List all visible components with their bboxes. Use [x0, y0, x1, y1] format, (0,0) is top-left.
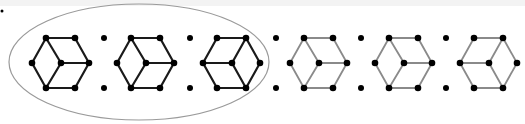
cube-1-edge — [46, 38, 61, 63]
cube-1-vertex-C — [58, 60, 65, 67]
cube-6-edge — [489, 38, 503, 63]
cube-3-edge — [232, 63, 246, 88]
separator-dot-bottom — [358, 85, 364, 91]
cube-2-edge — [131, 38, 146, 63]
cube-4-vertex-BR — [330, 85, 337, 92]
cube-2-edge — [117, 38, 131, 63]
cube-2-vertex-C — [143, 60, 150, 67]
separator-dot-bottom — [443, 85, 449, 91]
cube-5-vertex-L — [372, 60, 379, 67]
cube-4-edge — [304, 63, 319, 88]
cube-4-vertex-TL — [301, 35, 308, 42]
cube-5-vertex-C — [401, 60, 408, 67]
cube-graph-diagram — [0, 0, 525, 124]
cube-5-edge — [375, 38, 389, 63]
cube-3-edge — [246, 63, 260, 88]
cube-3-vertex-C — [229, 60, 236, 67]
cube-2-vertex-TR — [157, 35, 164, 42]
cube-4-edge — [333, 63, 347, 88]
cube-2-vertex-BL — [128, 85, 135, 92]
cube-2-edge — [131, 63, 146, 88]
cube-5-edge — [389, 63, 404, 88]
separator-dot-top — [101, 35, 107, 41]
corner-dot — [1, 10, 4, 13]
cube-5-edge — [418, 38, 432, 63]
cube-1-vertex-TL — [43, 35, 50, 42]
cube-2-vertex-R — [171, 60, 178, 67]
cube-5-vertex-TR — [415, 35, 422, 42]
cube-3-edge — [203, 63, 217, 88]
cube-1-vertex-TR — [72, 35, 79, 42]
cube-4-edge — [290, 38, 304, 63]
separator-dot-bottom — [101, 85, 107, 91]
cube-1-vertex-R — [86, 60, 93, 67]
cube-1-vertex-BL — [43, 85, 50, 92]
cube-3-vertex-R — [257, 60, 264, 67]
cube-3-vertex-BL — [214, 85, 221, 92]
cube-6-vertex-BL — [471, 85, 478, 92]
separator-dot-bottom — [273, 85, 279, 91]
cube-3-vertex-TR — [243, 35, 250, 42]
cube-5-edge — [418, 63, 432, 88]
cube-1-edge — [75, 63, 89, 88]
cube-6-vertex-L — [457, 60, 464, 67]
cube-3-edge — [232, 38, 246, 63]
cube-4-edge — [333, 38, 347, 63]
cube-4-vertex-TR — [330, 35, 337, 42]
cube-4-vertex-R — [344, 60, 351, 67]
cube-5-vertex-R — [429, 60, 436, 67]
cube-4-vertex-C — [316, 60, 323, 67]
cube-5-edge — [389, 38, 404, 63]
separator-dot-top — [443, 35, 449, 41]
cube-5-vertex-TL — [386, 35, 393, 42]
cube-2-vertex-L — [114, 60, 121, 67]
cube-6-vertex-C — [486, 60, 493, 67]
cube-4-edge — [304, 38, 319, 63]
cube-1-edge — [32, 63, 46, 88]
cube-5-vertex-BR — [415, 85, 422, 92]
cube-6-vertex-BR — [500, 85, 507, 92]
cube-1-edge — [75, 38, 89, 63]
cube-6-vertex-TL — [471, 35, 478, 42]
separator-dot-top — [273, 35, 279, 41]
cube-6-edge — [460, 38, 474, 63]
separator-dot-bottom — [187, 85, 193, 91]
cube-5-vertex-BL — [386, 85, 393, 92]
cube-2-vertex-BR — [157, 85, 164, 92]
cube-1-vertex-L — [29, 60, 36, 67]
cube-6-vertex-R — [514, 60, 521, 67]
cube-4-vertex-BL — [301, 85, 308, 92]
cube-4-vertex-L — [287, 60, 294, 67]
cube-3-edge — [246, 38, 260, 63]
cube-6-vertex-TR — [500, 35, 507, 42]
cube-1-edge — [32, 38, 46, 63]
cube-3-edge — [203, 38, 217, 63]
separator-dot-top — [358, 35, 364, 41]
separator-dot-top — [187, 35, 193, 41]
cube-3-vertex-L — [200, 60, 207, 67]
cube-6-edge — [503, 38, 517, 63]
cube-1-edge — [46, 63, 61, 88]
cube-2-vertex-TL — [128, 35, 135, 42]
cube-1-vertex-BR — [72, 85, 79, 92]
cube-2-edge — [160, 38, 174, 63]
cube-5-edge — [375, 63, 389, 88]
cube-2-edge — [160, 63, 174, 88]
cube-6-edge — [503, 63, 517, 88]
cube-2-edge — [117, 63, 131, 88]
cube-6-edge — [489, 63, 503, 88]
cube-4-edge — [290, 63, 304, 88]
cube-3-vertex-TL — [214, 35, 221, 42]
cube-3-vertex-BR — [243, 85, 250, 92]
cube-6-edge — [460, 63, 474, 88]
